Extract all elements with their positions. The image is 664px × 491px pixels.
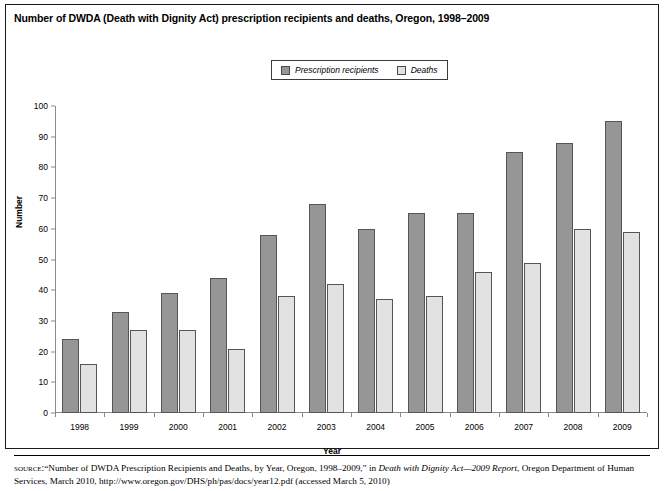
source-kicker: source: <box>14 462 44 473</box>
x-axis-tick-label: 2003 <box>306 422 346 432</box>
x-axis-tick-label: 2001 <box>208 422 248 432</box>
y-axis-label: Number <box>14 196 24 228</box>
bar-group <box>309 106 344 413</box>
bar-deaths <box>574 229 591 413</box>
bar-recipients <box>408 213 425 413</box>
y-axis-tick-label: 100 <box>26 102 48 111</box>
y-axis-tick: 70 <box>26 194 55 203</box>
bar-group <box>457 106 492 413</box>
y-axis-tick-label: 20 <box>26 347 48 356</box>
x-axis-tick-mark <box>400 413 401 417</box>
y-axis-tick: 100 <box>26 102 55 111</box>
bar-recipients <box>210 278 227 413</box>
bar-deaths <box>376 299 393 413</box>
y-axis-tick: 0 <box>26 409 55 418</box>
y-axis-tick-mark <box>51 351 55 352</box>
x-axis-tick-mark <box>450 413 451 417</box>
y-axis-tick: 40 <box>26 286 55 295</box>
bar-deaths <box>130 330 147 413</box>
chart-legend: Prescription recipients Deaths <box>271 60 448 80</box>
y-axis-tick: 80 <box>26 163 55 172</box>
bar-recipients <box>506 152 523 413</box>
bar-recipients <box>457 213 474 413</box>
figure-container: Number of DWDA (Death with Dignity Act) … <box>0 0 664 491</box>
bar-recipients <box>112 312 129 413</box>
bar-group <box>62 106 97 413</box>
bar-recipients <box>358 229 375 413</box>
legend-item-deaths: Deaths <box>397 65 438 75</box>
source-text-part1: “Number of DWDA Prescription Recipients … <box>44 463 378 473</box>
legend-item-recipients: Prescription recipients <box>281 65 379 75</box>
legend-label-deaths: Deaths <box>411 65 438 75</box>
bar-deaths <box>278 296 295 413</box>
legend-swatch-deaths <box>397 66 406 75</box>
y-axis-tick-mark <box>51 259 55 260</box>
y-axis-tick-mark <box>51 320 55 321</box>
y-axis-tick-label: 50 <box>26 255 48 264</box>
x-axis-tick-mark <box>104 413 105 417</box>
bar-group <box>260 106 295 413</box>
bar-recipients <box>309 204 326 413</box>
source-report-title: Death with Dignity Act—2009 Report <box>378 463 517 473</box>
bar-recipients <box>556 143 573 413</box>
x-axis-tick-mark <box>154 413 155 417</box>
y-axis-tick-label: 70 <box>26 194 48 203</box>
bar-group <box>408 106 443 413</box>
plot-area: 0102030405060708090100199819992000200120… <box>55 106 647 413</box>
bar-group <box>112 106 147 413</box>
x-axis-tick-label: 1999 <box>109 422 149 432</box>
x-axis-tick-mark <box>55 413 56 417</box>
x-axis-tick-label: 2006 <box>454 422 494 432</box>
source-divider <box>14 455 650 456</box>
y-axis-tick: 30 <box>26 316 55 325</box>
bar-recipients <box>62 339 79 413</box>
bar-deaths <box>475 272 492 413</box>
bar-recipients <box>605 121 622 413</box>
y-axis-tick-label: 40 <box>26 286 48 295</box>
bar-deaths <box>327 284 344 413</box>
x-axis-tick-mark <box>499 413 500 417</box>
y-axis-tick-mark <box>51 228 55 229</box>
bar-group <box>605 106 640 413</box>
x-axis-tick-mark <box>598 413 599 417</box>
bar-group <box>358 106 393 413</box>
bar-deaths <box>426 296 443 413</box>
bar-recipients <box>161 293 178 413</box>
bar-recipients <box>260 235 277 413</box>
y-axis-tick-mark <box>51 198 55 199</box>
source-note: source:“Number of DWDA Prescription Reci… <box>14 462 652 487</box>
x-axis-tick-mark <box>647 413 648 417</box>
bar-group <box>556 106 591 413</box>
y-axis-tick: 20 <box>26 347 55 356</box>
y-axis-tick-label: 10 <box>26 378 48 387</box>
y-axis-tick-mark <box>51 106 55 107</box>
x-axis-tick-label: 2009 <box>602 422 642 432</box>
x-axis-tick-mark <box>252 413 253 417</box>
x-axis-tick-label: 2008 <box>553 422 593 432</box>
y-axis-tick-mark <box>51 167 55 168</box>
page-title: Number of DWDA (Death with Dignity Act) … <box>14 12 644 25</box>
y-axis-tick-label: 0 <box>26 409 48 418</box>
x-axis-tick-label: 1998 <box>60 422 100 432</box>
bar-group <box>506 106 541 413</box>
x-axis-tick-mark <box>351 413 352 417</box>
legend-swatch-recipients <box>281 66 290 75</box>
y-axis-tick-label: 30 <box>26 316 48 325</box>
y-axis-tick-label: 60 <box>26 224 48 233</box>
y-axis-tick-mark <box>51 290 55 291</box>
legend-label-recipients: Prescription recipients <box>295 65 379 75</box>
x-axis-tick-mark <box>302 413 303 417</box>
x-axis-tick-label: 2000 <box>158 422 198 432</box>
y-axis-tick-mark <box>51 382 55 383</box>
bar-deaths <box>80 364 97 413</box>
bar-deaths <box>179 330 196 413</box>
x-axis-tick-label: 2007 <box>504 422 544 432</box>
bar-deaths <box>228 349 245 413</box>
x-axis-tick-label: 2005 <box>405 422 445 432</box>
x-axis-tick-mark <box>548 413 549 417</box>
y-axis-tick-label: 90 <box>26 132 48 141</box>
bar-group <box>161 106 196 413</box>
bar-deaths <box>623 232 640 413</box>
y-axis-tick-mark <box>51 136 55 137</box>
y-axis-tick-label: 80 <box>26 163 48 172</box>
